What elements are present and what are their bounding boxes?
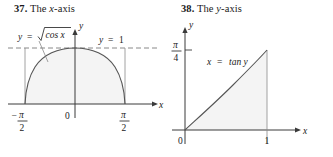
svg-text:cos x: cos x [46, 30, 66, 40]
curve-label-37: y = cos x [17, 28, 71, 43]
svg-text:π: π [19, 110, 24, 120]
exercise-number-37: 37. [14, 3, 27, 14]
exercise-prompt-suffix-37: -axis [54, 3, 75, 14]
svg-text:=: = [217, 57, 222, 67]
exercise-prompt-prefix-38: The [197, 3, 216, 14]
exercise-number-38: 38. [181, 3, 194, 14]
x-tick-label-pi-over-2: π 2 [120, 110, 130, 133]
y-tick-label-pi-over-4: π 4 [172, 40, 182, 63]
y-axis-name-37: y [78, 21, 84, 31]
svg-text:2: 2 [20, 123, 25, 133]
x-tick-label-zero-38: 0 [178, 136, 183, 146]
svg-text:−: − [12, 111, 17, 121]
exercise-prompt-suffix-38: -axis [221, 3, 242, 14]
exercise-prompt-prefix-37: The [30, 3, 49, 14]
svg-text:y: y [98, 35, 104, 45]
svg-text:tan y: tan y [229, 57, 249, 67]
y-axis-arrow-38 [182, 27, 187, 33]
svg-text:π: π [173, 40, 178, 50]
svg-text:2: 2 [122, 123, 127, 133]
svg-text:π: π [121, 110, 126, 120]
x-tick-label-zero-37: 0 [65, 111, 70, 121]
x-axis-arrow-38 [295, 127, 301, 132]
x-axis-arrow-37 [152, 101, 158, 106]
y-axis-arrow-37 [72, 29, 77, 35]
exercise-panel-37: 37. The x-axis [0, 0, 166, 157]
exercise-heading-38: 38. The y-axis [181, 3, 242, 14]
x-axis-name-37: x [158, 100, 164, 110]
x-tick-label-one-38: 1 [265, 136, 270, 146]
textbook-figure-page: 37. The x-axis [0, 0, 333, 157]
exercise-panel-38: 38. The y-axis [167, 0, 333, 157]
y-axis-name-38: y [188, 20, 194, 30]
svg-text:y: y [17, 32, 23, 42]
x-axis-name-38: x [302, 126, 308, 136]
curve-label-38: x = tan y [206, 57, 249, 67]
svg-text:x: x [206, 57, 212, 67]
svg-text:1: 1 [119, 35, 124, 45]
figure-38: x = tan y y x π 4 0 1 [167, 18, 333, 157]
line-label-y-equals-1: y = 1 [98, 35, 124, 45]
exercise-heading-37: 37. The x-axis [14, 3, 75, 14]
svg-text:=: = [27, 32, 32, 42]
svg-text:4: 4 [174, 53, 179, 63]
figure-37: y = cos x y = 1 y x − π [0, 18, 166, 157]
svg-text:=: = [108, 35, 113, 45]
x-tick-label-neg-pi-over-2: − π 2 [12, 110, 28, 133]
